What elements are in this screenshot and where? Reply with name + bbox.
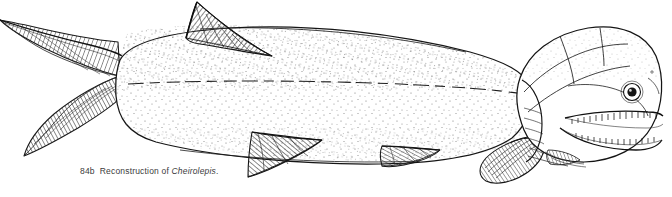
pelvic-fin bbox=[381, 146, 441, 167]
figure-caption: 84bReconstruction of Cheirolepis. bbox=[80, 166, 219, 176]
caption-terminator: . bbox=[216, 166, 219, 176]
eye bbox=[621, 81, 643, 103]
caudal-fin bbox=[0, 20, 126, 156]
figure-caption-text: Reconstruction of bbox=[100, 166, 169, 176]
head bbox=[515, 25, 670, 167]
body bbox=[110, 20, 540, 170]
figure-number: 84b bbox=[80, 166, 95, 176]
figure-page: 84bReconstruction of Cheirolepis. bbox=[0, 0, 672, 197]
taxon-name: Cheirolepis bbox=[172, 166, 217, 176]
